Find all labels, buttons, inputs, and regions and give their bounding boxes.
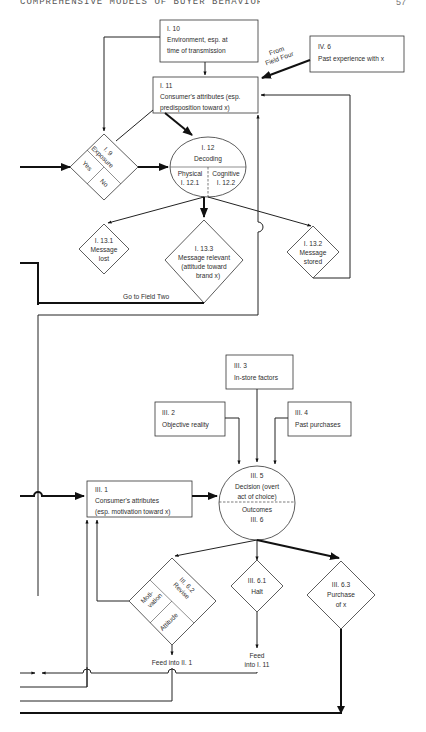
edge-feedback-to-i11 bbox=[258, 115, 263, 315]
node-i13-2-message-stored: I. 13.2 Message stored bbox=[287, 226, 339, 278]
iv6-line1: Past experience with x bbox=[318, 55, 385, 63]
iii3-id: III. 3 bbox=[234, 362, 247, 369]
i12-id: I. 12 bbox=[202, 144, 215, 151]
label-feed-into-ii1: Feed into II. 1 bbox=[152, 659, 193, 666]
iii1-line1: Consumer's attributes bbox=[95, 497, 160, 504]
i13-3-id: I. 13.3 bbox=[195, 245, 214, 252]
iii1-id: III. 1 bbox=[95, 486, 108, 493]
node-iii4-past-purchases: III. 4 Past purchases bbox=[288, 402, 351, 436]
iv6-id: IV. 6 bbox=[318, 43, 331, 50]
iii6-3-line2: of x bbox=[336, 601, 347, 608]
edge-i11-to-i12 bbox=[165, 113, 192, 135]
i13-1-line1: Message bbox=[91, 246, 118, 254]
iii5-line1: Decision (overt bbox=[235, 483, 279, 491]
iii5-line2: act of choice) bbox=[237, 493, 276, 501]
edge-iii6-to-iii6-3 bbox=[257, 540, 339, 558]
i13-2-line1: Message bbox=[300, 249, 327, 257]
i11-line2: predisposition toward x) bbox=[160, 104, 230, 112]
label-from-field-four: From Field Four bbox=[261, 42, 295, 67]
i12-label: Decoding bbox=[194, 155, 222, 163]
i10-line1: Environment, esp. at bbox=[167, 36, 228, 44]
node-iii1-consumer-attributes: III. 1 Consumer's attributes (esp. motiv… bbox=[87, 481, 192, 517]
iii4-line1: Past purchases bbox=[295, 421, 341, 429]
node-i12-decoding: I. 12 Decoding Physical I. 12.1 Cognitiv… bbox=[170, 137, 246, 197]
node-iii2-objective-reality: III. 2 Objective reality bbox=[155, 402, 225, 436]
iii2-line1: Objective reality bbox=[162, 421, 210, 429]
i10-id: I. 10 bbox=[167, 25, 180, 32]
node-i13-3-message-relevant: I. 13.3 Message relevant (attitude towar… bbox=[165, 220, 243, 303]
node-iii5-decision: III. 5 Decision (overt act of choice) Ou… bbox=[219, 466, 295, 540]
node-iv6-past-experience: IV. 6 Past experience with x bbox=[310, 36, 404, 72]
node-i10-environment: I. 10 Environment, esp. at time of trans… bbox=[160, 20, 258, 62]
node-iii6-1-halt: III. 6.1 Halt bbox=[231, 560, 283, 612]
edge-i12-to-i13-1 bbox=[108, 197, 204, 223]
node-iii6-3-purchase: III. 6.3 Purchase of x bbox=[307, 561, 375, 629]
node-iii3-in-store-factors: III. 3 In-store factors bbox=[226, 355, 293, 389]
iii4-id: III. 4 bbox=[295, 409, 308, 416]
iii5-outcomes: Outcomes bbox=[242, 506, 273, 513]
edge-iii2-to-iii5 bbox=[225, 418, 239, 464]
iii6-1-id: III. 6.1 bbox=[248, 577, 267, 584]
i12-physical-id: I. 12.1 bbox=[181, 179, 200, 186]
i12-physical: Physical bbox=[178, 170, 203, 178]
edge-input-to-iii1 bbox=[20, 492, 84, 496]
iii3-line1: In-store factors bbox=[234, 374, 279, 381]
label-go-to-field-two: Go to Field Two bbox=[123, 293, 169, 300]
edge-iii4-to-iii5 bbox=[275, 418, 288, 464]
i13-1-id: I. 13.1 bbox=[95, 237, 114, 244]
edge-feed-into-i11 bbox=[42, 669, 257, 673]
i12-cognitive-id: I. 12.2 bbox=[217, 179, 236, 186]
edge-feedback-a-out bbox=[20, 667, 87, 687]
i11-line1: Consumer's attributes (esp. bbox=[160, 93, 241, 101]
iii1-line2: (esp. motivation toward x) bbox=[95, 508, 171, 516]
i11-id: I. 11 bbox=[160, 82, 173, 89]
node-i9-exposure: I. 9 Exposure Yes No bbox=[70, 134, 138, 200]
i12-cognitive: Cognitive bbox=[212, 170, 240, 178]
iii6-1-line1: Halt bbox=[251, 588, 263, 595]
iii6-id: III. 6 bbox=[251, 516, 264, 523]
i13-1-line2: lost bbox=[99, 255, 109, 262]
label-feed-line2: into I. 11 bbox=[245, 661, 270, 668]
i13-3-line3: brand x) bbox=[196, 272, 220, 280]
flowchart: I. 10 Environment, esp. at time of trans… bbox=[0, 0, 426, 732]
node-iii6-2-revise: III. 6.2 Revise Moti- vation Attitude bbox=[129, 558, 216, 645]
edge-purchase-out bbox=[20, 629, 341, 713]
iii6-3-id: III. 6.3 bbox=[332, 581, 351, 588]
label-feed-line1: Feed bbox=[249, 652, 264, 659]
node-i11-consumer-attributes: I. 11 Consumer's attributes (esp. predis… bbox=[153, 77, 258, 113]
edge-feedback-lower-loop bbox=[38, 315, 258, 596]
i13-3-line2: (attitude toward bbox=[181, 263, 227, 271]
iii2-id: III. 2 bbox=[162, 409, 175, 416]
i10-line2: time of transmission bbox=[167, 47, 226, 54]
edge-i11-to-i9 bbox=[116, 110, 153, 141]
i13-2-id: I. 13.2 bbox=[304, 240, 323, 247]
i13-2-line2: stored bbox=[304, 258, 323, 265]
edge-i12-to-i13-2 bbox=[208, 197, 311, 226]
node-i13-1-message-lost: I. 13.1 Message lost bbox=[79, 224, 129, 274]
i13-3-line1: Message relevant bbox=[178, 254, 230, 262]
iii6-3-line1: Purchase bbox=[327, 591, 355, 598]
edge-iii6-to-iii6-2 bbox=[175, 540, 257, 556]
iii5-id: III. 5 bbox=[251, 472, 264, 479]
edge-i10-to-i9 bbox=[104, 37, 160, 131]
